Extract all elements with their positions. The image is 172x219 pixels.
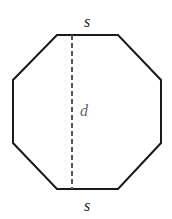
octagon-diagram: s s d bbox=[0, 0, 172, 219]
diameter-label: d bbox=[80, 102, 89, 119]
top-side-label: s bbox=[84, 13, 90, 30]
bottom-side-label: s bbox=[84, 197, 90, 214]
